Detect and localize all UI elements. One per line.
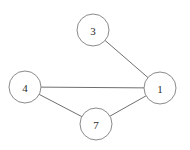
graph-node-1[interactable]: 1: [144, 72, 176, 104]
graph-node-label-3: 3: [90, 25, 96, 37]
graph-node-4[interactable]: 4: [9, 71, 41, 103]
graph-node-7[interactable]: 7: [80, 108, 112, 140]
nodes-layer: 3417: [9, 14, 176, 140]
graph-diagram: 3417: [0, 0, 190, 150]
graph-edge-4-1: [41, 87, 144, 88]
graph-node-label-1: 1: [157, 83, 163, 95]
graph-edge-7-1: [110, 96, 146, 116]
graph-edge-4-7: [39, 94, 82, 116]
graph-edge-3-1: [105, 40, 148, 77]
graph-node-label-4: 4: [22, 82, 28, 94]
edges-layer: [39, 40, 148, 116]
graph-node-label-7: 7: [93, 119, 99, 131]
graph-canvas: 3417: [0, 0, 190, 150]
graph-node-3[interactable]: 3: [77, 14, 109, 46]
